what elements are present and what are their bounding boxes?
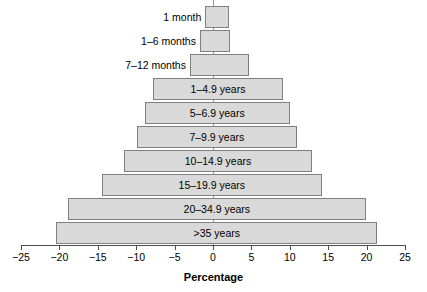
bar: [200, 30, 230, 52]
x-tick-label: −15: [78, 251, 118, 263]
bar-row: >35 years: [0, 222, 427, 244]
x-axis: −25−20−15−10−50510152025 Percentage: [0, 245, 427, 292]
bar-row: 7–9.9 years: [0, 126, 427, 148]
bar-row: 15–19.9 years: [0, 174, 427, 196]
x-tick-label: 25: [385, 251, 425, 263]
bar-row: 20–34.9 years: [0, 198, 427, 220]
bar-category-label: 1 month: [0, 6, 201, 28]
x-tick-label: 20: [347, 251, 387, 263]
bar-row: 1 month: [0, 6, 427, 28]
bar-category-label: 20–34.9 years: [68, 198, 366, 220]
x-tick: [213, 245, 214, 250]
bar-category-label: 15–19.9 years: [102, 174, 322, 196]
bar-row: 5–6.9 years: [0, 102, 427, 124]
bar-category-label: 1–6 months: [0, 30, 196, 52]
x-tick: [251, 245, 252, 250]
x-tick: [59, 245, 60, 250]
plot-area: 1 month1–6 months7–12 months1–4.9 years5…: [0, 0, 427, 245]
x-axis-title: Percentage: [0, 271, 427, 283]
bar-category-label: 1–4.9 years: [153, 78, 283, 100]
x-tick: [136, 245, 137, 250]
bar-category-label: 7–9.9 years: [137, 126, 297, 148]
x-tick: [175, 245, 176, 250]
x-tick: [367, 245, 368, 250]
zero-line-notch-top: [213, 0, 214, 6]
x-tick-label: −10: [116, 251, 156, 263]
bar-category-label: 7–12 months: [0, 54, 186, 76]
x-tick-label: −25: [1, 251, 41, 263]
bar: [190, 54, 249, 76]
x-tick-label: −5: [155, 251, 195, 263]
bar-row: 10–14.9 years: [0, 150, 427, 172]
x-tick: [290, 245, 291, 250]
bar: [205, 6, 229, 28]
x-tick: [21, 245, 22, 250]
x-tick-label: 15: [308, 251, 348, 263]
x-tick: [405, 245, 406, 250]
x-tick-label: −20: [39, 251, 79, 263]
x-tick-label: 5: [231, 251, 271, 263]
x-tick-label: 0: [193, 251, 233, 263]
percentage-pyramid-chart: 1 month1–6 months7–12 months1–4.9 years5…: [0, 0, 427, 292]
bar-category-label: 5–6.9 years: [145, 102, 290, 124]
x-tick-label: 10: [270, 251, 310, 263]
bar-category-label: 10–14.9 years: [124, 150, 312, 172]
bar-row: 1–6 months: [0, 30, 427, 52]
x-tick: [98, 245, 99, 250]
x-tick: [328, 245, 329, 250]
bar-row: 7–12 months: [0, 54, 427, 76]
bar-category-label: >35 years: [56, 222, 377, 244]
bar-row: 1–4.9 years: [0, 78, 427, 100]
